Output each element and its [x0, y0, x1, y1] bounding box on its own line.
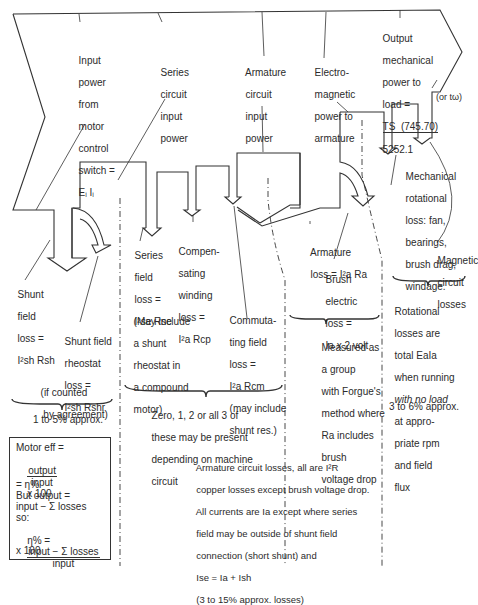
text: loss = [230, 359, 256, 370]
eff-but: But output = [16, 490, 70, 501]
text: Eᵢ Iᵢ [79, 187, 94, 198]
text: a shunt [134, 338, 167, 349]
text: flux [395, 482, 411, 493]
text: priate rpm [395, 438, 440, 449]
text: electric [326, 296, 358, 307]
eff-line: Motor eff = [16, 442, 64, 453]
electromagnetic-power-label: Electro- magnetic power to armature [309, 56, 355, 144]
text: load = [383, 99, 411, 110]
text: power [79, 77, 106, 88]
text: circuit [161, 89, 187, 100]
text: Armature [310, 247, 351, 258]
text: these may be present [152, 432, 248, 443]
text: sating [179, 268, 206, 279]
text: loss = [326, 318, 352, 329]
text: a compound [134, 382, 189, 393]
text: Ra includes [322, 430, 374, 441]
text: (if counted [41, 387, 88, 398]
shunt-field-loss-label: Shunt field loss = I²sh Rsh [12, 278, 55, 366]
shunt-percent-label: 1 to 5% approx. [33, 414, 103, 425]
text: Output [383, 33, 413, 44]
text: at appro- [395, 416, 435, 427]
text: power to [383, 77, 421, 88]
text: control [79, 143, 109, 154]
text: Zero, 1, 2 or all 3 of [152, 410, 239, 421]
text: total EaIa [395, 350, 437, 361]
text: from [79, 99, 99, 110]
text: field may be outside of shunt field [196, 528, 337, 539]
text: armature [315, 133, 355, 144]
text: power [161, 133, 188, 144]
text: copper losses except brush voltage drop. [196, 484, 369, 495]
text: method where [322, 408, 385, 419]
rotational-percent-label: 3 to 6% approx. [389, 401, 459, 412]
text: winding [179, 290, 213, 301]
text: Armature [245, 67, 286, 78]
output-formula-numerator: TS (745.70) [383, 121, 439, 133]
eff-so: so: [16, 512, 29, 523]
denominator: input [27, 558, 99, 569]
numerator: output [27, 465, 57, 477]
text: and field [395, 460, 433, 471]
text: Electro- [315, 67, 349, 78]
text: Shunt [18, 289, 44, 300]
text: mechanical [383, 55, 434, 66]
text: losses are [395, 328, 441, 339]
output-power-label: Output mechanical power to load = TS (74… [377, 22, 438, 155]
text: rheostat [65, 358, 101, 369]
efficiency-formula-box: Motor eff = outputinput x 100 = η% But o… [9, 437, 111, 560]
text: (3 to 15% approx. losses) [196, 594, 304, 605]
text: circuit [246, 89, 272, 100]
text: ting field [230, 337, 267, 348]
output-formula-denominator: 5252.1 [383, 144, 414, 155]
rotational-losses-note: Rotational losses are total EaIa when ru… [389, 295, 455, 493]
text: switch = [79, 165, 115, 176]
text: Compen- [179, 246, 220, 257]
text: motor [79, 121, 105, 132]
text: (May include [134, 316, 191, 327]
armature-circuit-input-label: Armature circuit input power [240, 56, 286, 144]
text: Mechanical [406, 171, 457, 182]
text: Commuta- [230, 315, 277, 326]
text: input [161, 111, 183, 122]
text: loss = [135, 294, 161, 305]
text: Series [135, 250, 163, 261]
text: loss: fan, [406, 215, 446, 226]
text: Ise = Ia + Ish [196, 572, 251, 583]
text: Shunt field [65, 336, 112, 347]
eff-times100: x 100 [16, 545, 40, 556]
text: power to [315, 111, 353, 122]
text: input [246, 111, 268, 122]
text: field [135, 272, 153, 283]
text: connection (short shunt) and [196, 550, 316, 561]
text: magnetic [315, 89, 356, 100]
text: Input [79, 55, 101, 66]
text: field [18, 311, 36, 322]
text: when running [395, 372, 455, 383]
armature-circuit-losses-note: Armature circuit losses, all are I²R cop… [191, 451, 370, 605]
text: rotational [406, 193, 447, 204]
eff-eta: = η% [16, 479, 39, 490]
or-tau-omega-label: (or tω) [436, 92, 462, 103]
text: Brush [326, 274, 352, 285]
input-power-label: Input power from motor control switch = … [73, 44, 115, 198]
formula: I²sh Rsh [18, 355, 55, 366]
text: power [246, 133, 273, 144]
text: circuit [438, 277, 464, 288]
eff-minus: input − Σ losses [16, 501, 86, 512]
text: Measured as [322, 342, 380, 353]
text: Magnetic [438, 255, 478, 266]
text: Armature circuit losses, all are I²R [196, 462, 339, 473]
text: All currents are Ia except where series [196, 506, 358, 517]
text: circuit [152, 476, 178, 487]
text: Rotational [395, 306, 440, 317]
text: Series [161, 67, 189, 78]
series-circuit-input-label: Series circuit input power [155, 56, 189, 144]
text: with Forgue's [322, 386, 381, 397]
formula: I²a Rcm [230, 381, 265, 392]
text: loss = [18, 333, 44, 344]
text: rheostat in [134, 360, 181, 371]
text: a group [322, 364, 356, 375]
